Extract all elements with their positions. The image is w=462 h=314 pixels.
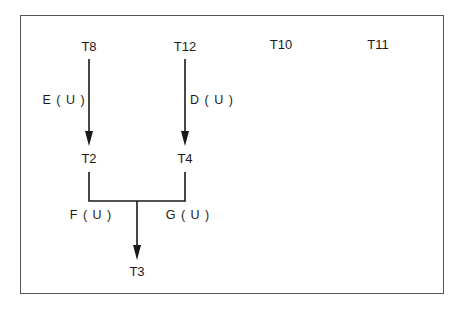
arrowhead-icon bbox=[133, 245, 141, 260]
edge-t12-t4 bbox=[181, 59, 189, 146]
node-t3: T3 bbox=[129, 265, 144, 279]
node-t2: T2 bbox=[81, 152, 96, 166]
edge-label-d: D ( U ) bbox=[190, 93, 234, 107]
edge-t8-t2 bbox=[85, 59, 93, 146]
edges-layer bbox=[0, 0, 462, 314]
edge-label-e: E ( U ) bbox=[42, 93, 85, 107]
arrowhead-icon bbox=[181, 131, 189, 146]
node-t10: T10 bbox=[270, 38, 292, 52]
arrowhead-icon bbox=[85, 131, 93, 146]
node-t8: T8 bbox=[81, 40, 96, 54]
edge-label-g: G ( U ) bbox=[166, 208, 211, 222]
node-t12: T12 bbox=[174, 40, 196, 54]
edge-label-f: F ( U ) bbox=[70, 208, 112, 222]
node-t4: T4 bbox=[177, 152, 192, 166]
node-t11: T11 bbox=[367, 38, 388, 52]
